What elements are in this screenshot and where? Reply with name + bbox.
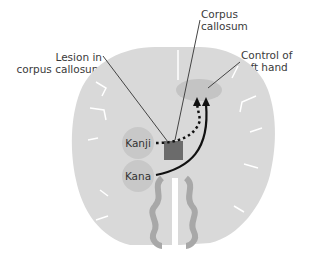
- kanji-label: Kanji: [125, 137, 151, 149]
- kana-label: Kana: [125, 170, 151, 182]
- brain-diagram: Kanji Kana: [0, 0, 312, 255]
- lesion-marker: [164, 141, 183, 160]
